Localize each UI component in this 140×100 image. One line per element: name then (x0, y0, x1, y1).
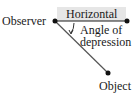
object-label: Object (99, 80, 131, 92)
angle-arrow-icon (69, 30, 73, 34)
angle-label-line2: depression (80, 36, 131, 48)
observer-label: Observer (2, 15, 46, 27)
horizontal-end-point (125, 19, 130, 24)
angle-of-depression-diagram: Observer Horizontal Angle of depression … (0, 0, 140, 100)
object-point (106, 71, 111, 76)
observer-point (53, 19, 58, 24)
horizontal-label: Horizontal (66, 8, 117, 20)
